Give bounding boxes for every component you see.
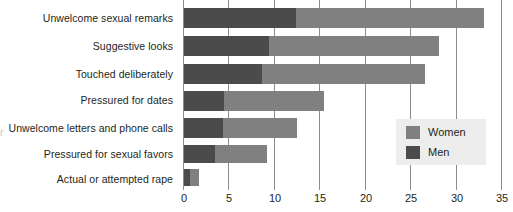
- bar-segment-women: [215, 145, 267, 163]
- bar-segment-women: [262, 64, 425, 84]
- legend-swatch-women-icon: [406, 126, 420, 139]
- category-label-pressured-for-dates: Pressured for dates: [1, 94, 173, 106]
- bar-row: [184, 145, 267, 163]
- bar-segment-men: [184, 145, 215, 163]
- bar-segment-women: [190, 169, 199, 186]
- bar-row: [184, 118, 297, 138]
- category-label-unwelcome-letters-phone-calls: Unwelcome letters and phone calls: [1, 122, 173, 134]
- bar-segment-men: [184, 64, 262, 84]
- horizontal-stacked-bar-chart: r Unwelcome sexual remarks Suggestive lo…: [0, 0, 513, 212]
- bar-row: [184, 8, 484, 28]
- chart-legend: Women Men: [396, 119, 486, 165]
- bar-row: [184, 91, 324, 111]
- legend-label-men: Men: [428, 146, 449, 158]
- bar-segment-women: [269, 36, 439, 56]
- gridline-20: [365, 0, 366, 190]
- x-tick-0: 0: [181, 192, 187, 204]
- category-label-unwelcome-sexual-remarks: Unwelcome sexual remarks: [1, 12, 173, 24]
- gridline-35: [501, 0, 502, 190]
- bar-segment-women: [223, 118, 297, 138]
- bar-segment-men: [184, 91, 224, 111]
- legend-label-women: Women: [428, 126, 466, 138]
- bar-segment-women: [296, 8, 484, 28]
- bar-row: [184, 169, 199, 186]
- bar-row: [184, 64, 425, 84]
- x-tick-10: 10: [269, 192, 281, 204]
- bar-segment-women: [224, 91, 324, 111]
- category-label-actual-or-attempted-rape: Actual or attempted rape: [1, 173, 173, 185]
- bar-segment-men: [184, 118, 223, 138]
- x-tick-25: 25: [405, 192, 417, 204]
- x-axis-tick-labels: 0 5 10 15 20 25 30 35: [183, 190, 513, 212]
- category-label-touched-deliberately: Touched deliberately: [1, 68, 173, 80]
- category-label-pressured-for-sexual-favors: Pressured for sexual favors: [1, 148, 173, 160]
- x-tick-5: 5: [226, 192, 232, 204]
- x-tick-15: 15: [314, 192, 326, 204]
- legend-item-men: Men: [406, 145, 449, 159]
- x-tick-20: 20: [360, 192, 372, 204]
- x-tick-35: 35: [496, 192, 508, 204]
- category-axis-labels: Unwelcome sexual remarks Suggestive look…: [0, 0, 178, 190]
- bar-row: [184, 36, 439, 56]
- category-label-suggestive-looks: Suggestive looks: [1, 40, 173, 52]
- bar-segment-men: [184, 8, 296, 28]
- bar-segment-men: [184, 36, 269, 56]
- legend-item-women: Women: [406, 125, 466, 139]
- x-tick-30: 30: [451, 192, 463, 204]
- plot-area: Women Men: [183, 0, 503, 190]
- legend-swatch-men-icon: [406, 146, 420, 159]
